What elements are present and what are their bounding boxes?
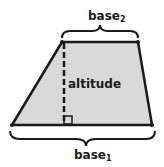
bottom-base-label: base1 bbox=[74, 148, 112, 163]
top-brace bbox=[62, 25, 138, 38]
altitude-label: altitude bbox=[68, 77, 121, 91]
trapezoid-diagram: base2 altitude base1 bbox=[0, 0, 164, 167]
bottom-brace bbox=[10, 131, 155, 146]
top-base-label: base2 bbox=[88, 9, 126, 24]
